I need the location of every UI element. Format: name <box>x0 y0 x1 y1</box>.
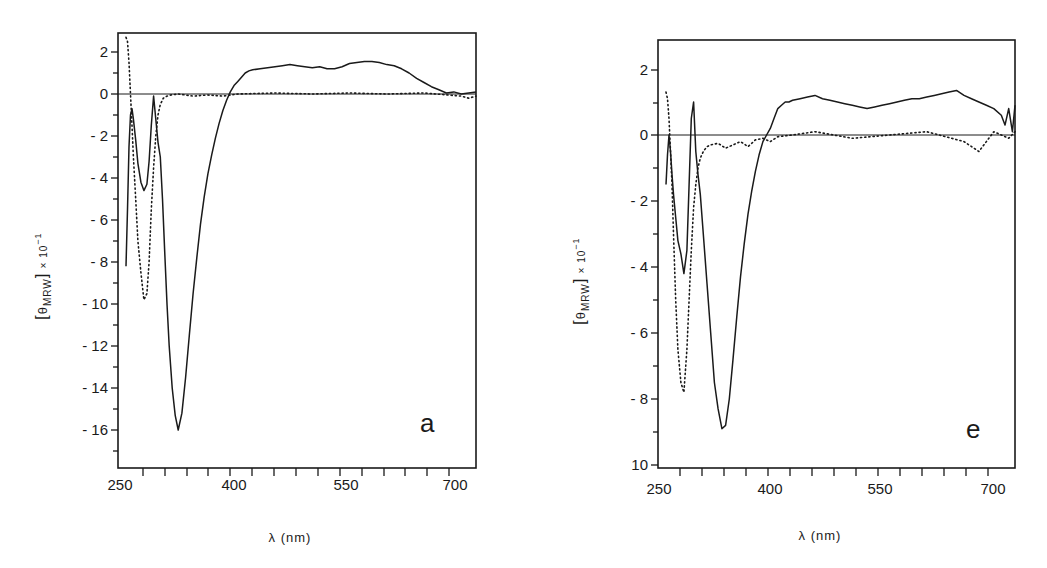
plot-frame-a <box>118 33 476 468</box>
solid-series-line <box>126 61 476 430</box>
y-tick-label: 2 <box>100 43 108 60</box>
y-axis-title-e: [θMRW]× 10−1 <box>570 237 591 325</box>
theta-symbol: θ <box>573 311 588 319</box>
figure-canvas: 2 0 - 2 - 4 - 6 - 8 - 10 - 12 - 14 - 16 … <box>0 0 1047 568</box>
factor-text: × 10 <box>38 245 49 269</box>
x-tick-label: 700 <box>980 480 1005 497</box>
panel-label-a: a <box>420 408 435 438</box>
y-tick-label: - 2 <box>630 192 648 209</box>
dotted-series-line <box>126 37 476 300</box>
data-series-a <box>126 37 476 430</box>
y-tick-label: - 10 <box>82 295 108 312</box>
x-tick-label: 400 <box>221 476 246 493</box>
x-ticks-a <box>143 468 449 476</box>
x-axis-title-e: λ (nm) <box>799 528 842 543</box>
solid-series-line <box>666 90 1015 428</box>
y-tick-label: - 4 <box>630 258 648 275</box>
theta-symbol: θ <box>35 306 50 314</box>
y-axis-title-a: [θMRW]× 10−1 <box>32 232 53 320</box>
y-tick-label: - 8 <box>90 253 108 270</box>
x-tick-label: 250 <box>646 480 671 497</box>
y-tick-label: - 4 <box>90 169 108 186</box>
exponent-text: −1 <box>33 232 43 244</box>
bracket-close: ] <box>570 277 589 283</box>
y-ticks-e <box>651 70 658 465</box>
plot-frame-e <box>658 40 1015 468</box>
chart-panel-e: 2 0 - 2 - 4 - 6 - 8 10 250 400 550 700 λ… <box>570 40 1015 543</box>
factor-text: × 10 <box>576 250 587 274</box>
x-tick-label: 550 <box>867 480 892 497</box>
y-tick-label: 0 <box>640 126 648 143</box>
svg-text:[θMRW]× 10−1: [θMRW]× 10−1 <box>32 232 53 320</box>
y-tick-label: - 6 <box>90 211 108 228</box>
x-tick-label: 250 <box>107 476 132 493</box>
panel-label-e: e <box>966 414 980 444</box>
x-tick-label: 550 <box>333 476 358 493</box>
mrw-subscript: MRW <box>42 278 53 306</box>
x-tick-labels-e: 250 400 550 700 <box>646 480 1005 497</box>
mrw-subscript: MRW <box>580 283 591 311</box>
svg-text:[θMRW]× 10−1: [θMRW]× 10−1 <box>570 237 591 325</box>
y-tick-label: 0 <box>100 85 108 102</box>
y-tick-label: - 8 <box>630 390 648 407</box>
data-series-e <box>666 90 1015 428</box>
x-axis-title-a: λ (nm) <box>269 530 312 545</box>
dotted-series-line <box>666 92 1015 392</box>
y-tick-labels-a: 2 0 - 2 - 4 - 6 - 8 - 10 - 12 - 14 - 16 <box>82 43 108 438</box>
y-tick-label: - 14 <box>82 379 108 396</box>
exponent-text: −1 <box>571 237 581 249</box>
chart-panel-a: 2 0 - 2 - 4 - 6 - 8 - 10 - 12 - 14 - 16 … <box>32 33 476 545</box>
y-tick-labels-e: 2 0 - 2 - 4 - 6 - 8 10 <box>630 61 648 473</box>
bracket-close: ] <box>32 272 51 278</box>
x-tick-label: 400 <box>757 480 782 497</box>
y-tick-label: - 2 <box>90 127 108 144</box>
y-tick-label: 2 <box>640 61 648 78</box>
x-ticks-e <box>680 468 988 476</box>
y-tick-label: 10 <box>631 456 648 473</box>
x-tick-labels-a: 250 400 550 700 <box>107 476 467 493</box>
x-tick-label: 700 <box>442 476 467 493</box>
y-tick-label: - 12 <box>82 337 108 354</box>
y-tick-label: - 6 <box>630 324 648 341</box>
y-ticks-a <box>111 52 118 451</box>
y-tick-label: - 16 <box>82 421 108 438</box>
